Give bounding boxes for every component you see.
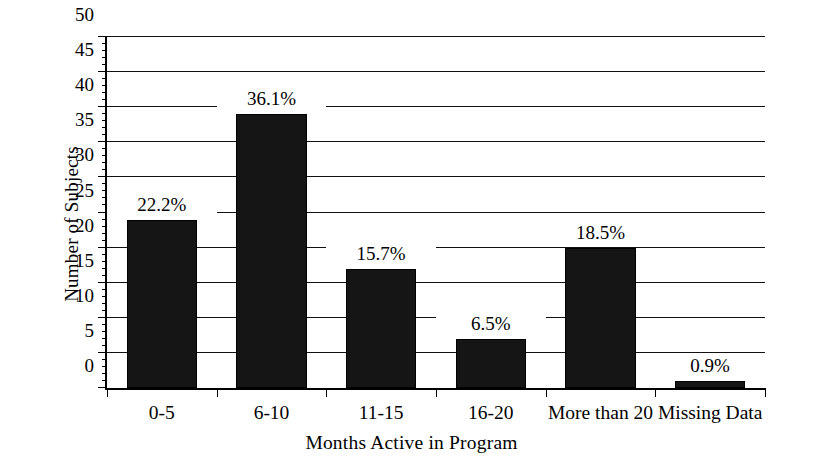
- y-major-tick: [98, 106, 107, 107]
- y-tick-label: 15: [54, 249, 94, 271]
- y-major-tick: [98, 176, 107, 177]
- bar-slot: 0.9%: [655, 37, 765, 388]
- bar: [565, 248, 635, 388]
- y-tick-label: 30: [54, 144, 94, 166]
- bar-series: 22.2%36.1%15.7%6.5%18.5%0.9%: [107, 37, 765, 388]
- bar-chart: Number of Subjects 05101520253035404550 …: [0, 0, 823, 474]
- y-tick-label: 25: [54, 179, 94, 201]
- bar: [456, 339, 526, 388]
- x-tick-label: 16-20: [468, 402, 514, 424]
- bar-value-label: 6.5%: [436, 313, 546, 335]
- y-tick-label: 35: [54, 109, 94, 131]
- y-tick-label: 5: [54, 320, 94, 342]
- x-tick-label: 11-15: [359, 402, 404, 424]
- y-major-tick: [98, 282, 107, 283]
- y-tick-label: 45: [54, 39, 94, 61]
- bar: [675, 381, 745, 388]
- bar-slot: 22.2%: [107, 37, 217, 388]
- x-tick-label: 0-5: [149, 402, 175, 424]
- y-tick-label: 50: [54, 4, 94, 26]
- bar: [127, 220, 197, 388]
- bar-value-label: 15.7%: [326, 243, 436, 265]
- bar-value-label: 0.9%: [655, 355, 765, 377]
- y-tick-label: 40: [54, 74, 94, 96]
- y-tick-label: 10: [54, 285, 94, 307]
- x-tick: [326, 388, 327, 397]
- x-tick-label: Missing Data: [658, 402, 763, 424]
- x-tick: [765, 388, 766, 397]
- x-tick: [217, 388, 218, 397]
- x-tick: [436, 388, 437, 397]
- bar: [236, 114, 306, 388]
- y-major-tick: [98, 141, 107, 142]
- x-tick-label: 6-10: [254, 402, 290, 424]
- bar-slot: 15.7%: [326, 37, 436, 388]
- bar-slot: 18.5%: [546, 37, 656, 388]
- y-major-tick: [98, 36, 107, 37]
- plot-area: 05101520253035404550 22.2%36.1%15.7%6.5%…: [105, 37, 765, 390]
- x-tick: [655, 388, 656, 397]
- y-major-tick: [98, 352, 107, 353]
- bar-value-label: 36.1%: [217, 88, 327, 110]
- x-tick: [107, 388, 108, 397]
- y-major-tick: [98, 71, 107, 72]
- bar: [346, 269, 416, 388]
- bar-value-label: 22.2%: [107, 194, 217, 216]
- y-tick-label: 0: [54, 355, 94, 377]
- bar-value-label: 18.5%: [546, 222, 656, 244]
- y-major-tick: [98, 247, 107, 248]
- y-major-tick: [98, 212, 107, 213]
- bar-slot: 36.1%: [217, 37, 327, 388]
- y-major-tick: [98, 387, 107, 388]
- x-axis-title: Months Active in Program: [0, 432, 823, 454]
- x-tick-label: More than 20: [548, 402, 653, 424]
- y-major-tick: [98, 317, 107, 318]
- y-tick-label: 20: [54, 214, 94, 236]
- bar-slot: 6.5%: [436, 37, 546, 388]
- x-tick: [546, 388, 547, 397]
